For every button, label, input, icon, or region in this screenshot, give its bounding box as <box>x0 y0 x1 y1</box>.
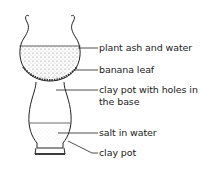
label-banana-leaf: banana leaf <box>99 64 154 75</box>
label-clay-pot-with-holes: clay pot with holes in <box>99 84 198 95</box>
plant-ash-fill <box>18 46 82 82</box>
label-clay-pot: clay pot <box>99 147 136 158</box>
label-clay-pot-with-holes-cont: the base <box>99 96 139 107</box>
label-plant-ash-and-water: plant ash and water <box>99 42 192 53</box>
leader-clay-pot <box>68 141 98 153</box>
label-salt-in-water: salt in water <box>99 127 157 138</box>
lower-clay-pot <box>29 82 71 154</box>
